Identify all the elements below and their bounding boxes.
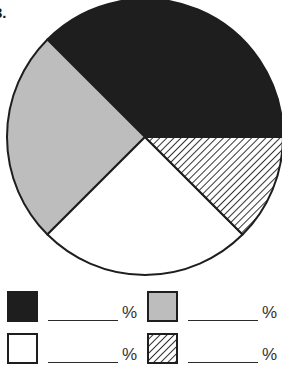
swatch-hatched — [147, 333, 178, 364]
legend-item-hatched: % — [147, 333, 282, 364]
legend-item-gray: % — [147, 291, 282, 322]
percent-sign: % — [262, 303, 277, 323]
percent-sign: % — [262, 345, 277, 365]
legend-item-dark: % — [7, 291, 142, 322]
answer-blank-gray[interactable] — [188, 320, 258, 321]
answer-blank-white[interactable] — [48, 362, 118, 363]
answer-blank-hatched[interactable] — [188, 362, 258, 363]
swatch-dark — [7, 291, 38, 322]
legend-item-white: % — [7, 333, 142, 364]
swatch-white — [7, 333, 38, 364]
answer-blank-dark[interactable] — [48, 320, 118, 321]
pie-chart — [0, 0, 282, 290]
swatch-gray — [147, 291, 178, 322]
percent-sign: % — [122, 303, 137, 323]
percent-sign: % — [122, 345, 137, 365]
